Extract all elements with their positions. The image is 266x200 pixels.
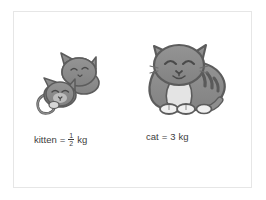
fraction-numerator: 1: [68, 132, 74, 139]
kitten-illustration: [32, 50, 110, 120]
cat-label-subject: cat: [146, 132, 159, 142]
cat-label: cat = 3 kg: [146, 132, 189, 142]
labels-row: kitten = 1 2 kg cat = 3 kg: [14, 128, 251, 158]
fraction-denominator: 2: [68, 140, 74, 147]
kitten-label-equals: =: [60, 135, 66, 145]
kitten-label: kitten = 1 2 kg: [34, 132, 87, 148]
cat-icon: [132, 30, 234, 122]
kitten-label-unit: kg: [77, 135, 87, 145]
cat-label-value: 3: [170, 132, 175, 142]
kitten-icon: [32, 50, 110, 120]
figure-panel: kitten = 1 2 kg cat = 3 kg: [13, 11, 252, 188]
cat-label-equals: =: [162, 132, 168, 142]
cat-illustration: [132, 30, 234, 122]
kitten-label-fraction: 1 2: [68, 132, 74, 148]
illustration-row: [14, 12, 251, 132]
cat-label-unit: kg: [179, 132, 189, 142]
kitten-label-subject: kitten: [34, 135, 57, 145]
